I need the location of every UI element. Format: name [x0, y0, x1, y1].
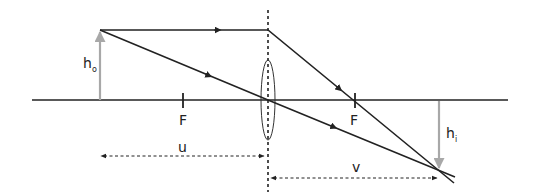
object-height-label: ho: [83, 56, 97, 70]
diagram-canvas: [0, 0, 534, 194]
image-height-label: hi: [446, 126, 457, 140]
ray-central: [100, 30, 455, 177]
object-distance-label: u: [178, 140, 187, 154]
ray-diagram: ho hi F F u v: [0, 0, 534, 194]
focal-label-right: F: [350, 113, 358, 127]
image-distance-label: v: [352, 160, 360, 174]
focal-label-left: F: [179, 113, 187, 127]
